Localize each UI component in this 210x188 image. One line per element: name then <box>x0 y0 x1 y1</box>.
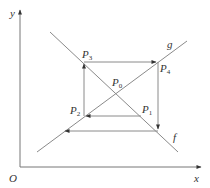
cobweb-diagram: y x O g f P3 P4 P0 P2 P1 <box>0 0 210 188</box>
y-axis-label: y <box>9 7 15 19</box>
curve-g-label: g <box>167 38 173 50</box>
curve-g <box>37 41 187 152</box>
point-p4-label: P4 <box>159 62 171 76</box>
point-p2-label: P2 <box>69 104 81 118</box>
x-axis-label: x <box>193 172 199 184</box>
point-p1-label: P1 <box>141 103 153 117</box>
point-p3-label: P3 <box>81 48 93 62</box>
point-p0-label: P0 <box>111 76 123 90</box>
origin-label: O <box>9 172 17 184</box>
curve-f-label: f <box>173 131 178 143</box>
curve-f <box>50 32 178 152</box>
